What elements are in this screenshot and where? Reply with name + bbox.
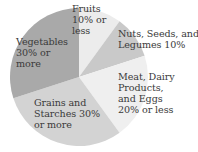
label-fruits: Fruits 10% or less (72, 3, 106, 36)
label-grains-starches: Grains and Starches 30% or more (34, 97, 100, 130)
label-meat-dairy-eggs: Meat, Dairy Products, and Eggs 20% or le… (118, 71, 175, 115)
label-nuts-seeds-legumes: Nuts, Seeds, and Legumes 10% (118, 28, 198, 50)
label-vegetables: Vegetables 30% or more (16, 36, 68, 69)
